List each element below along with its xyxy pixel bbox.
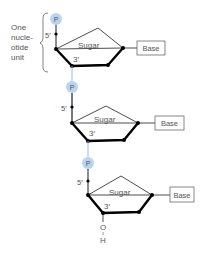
bracket-label-line-4: unit bbox=[11, 53, 25, 62]
five-prime-label: 5′ bbox=[77, 178, 83, 187]
bracket-label-line-3: otide bbox=[11, 43, 29, 52]
base-label: Base bbox=[142, 44, 159, 53]
phosphate-label: P bbox=[70, 84, 75, 91]
nucleotide-unit-bracket: One nucle- otide unit bbox=[11, 13, 48, 72]
base-label: Base bbox=[161, 119, 178, 128]
five-prime-label: 5′ bbox=[45, 31, 51, 40]
phosphate-label: P bbox=[86, 160, 91, 167]
three-prime-label: 3′ bbox=[73, 55, 79, 64]
bracket-label-line-2: nucle- bbox=[11, 33, 33, 42]
sugar-label: Sugar bbox=[94, 115, 116, 124]
nucleotide-unit-3: P 5′ Sugar 3′ Base O H bbox=[77, 157, 194, 245]
hydroxyl-hydrogen-label: H bbox=[100, 236, 106, 245]
three-prime-label: 3′ bbox=[104, 202, 110, 211]
sugar-label: Sugar bbox=[78, 41, 100, 50]
three-prime-label: 3′ bbox=[89, 129, 95, 138]
base-label: Base bbox=[173, 191, 190, 200]
nucleotide-unit-2: P 5′ Sugar 3′ Base bbox=[61, 81, 184, 143]
nucleotide-chain-diagram: One nucle- otide unit P 5′ Sugar 3′ Base… bbox=[0, 0, 204, 256]
phosphate-label: P bbox=[54, 16, 59, 23]
sugar-label: Sugar bbox=[109, 188, 131, 197]
five-prime-label: 5′ bbox=[61, 104, 67, 113]
hydroxyl-oxygen-label: O bbox=[100, 223, 106, 232]
nucleotide-unit-1: P 5′ Sugar 3′ Base bbox=[45, 13, 165, 68]
bracket-label-line-1: One bbox=[11, 23, 27, 32]
